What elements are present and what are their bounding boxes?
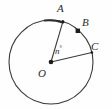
point-label-b: B: [82, 17, 89, 28]
center-point-dot: [49, 60, 54, 65]
central-angle-label: n°: [55, 45, 62, 56]
degree-symbol: °: [60, 45, 62, 51]
point-label-c: C: [91, 41, 98, 52]
point-a-dot: [61, 20, 64, 23]
geometry-figure: A B C O n°: [0, 0, 112, 109]
point-label-a: A: [57, 3, 64, 14]
point-b-marker: [76, 29, 80, 33]
center-label-o: O: [38, 68, 46, 79]
